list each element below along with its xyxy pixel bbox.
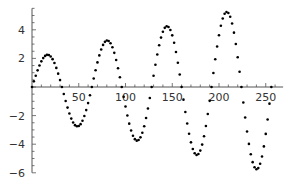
axes: 50100150200250−6−4−224: [9, 8, 283, 179]
x-tick-label: 50: [72, 91, 86, 104]
data-points: [31, 11, 273, 171]
x-tick-label: 100: [115, 91, 136, 104]
chart-plot: 50100150200250−6−4−224: [0, 0, 299, 190]
y-tick-label: 2: [18, 52, 25, 65]
x-tick-label: 150: [162, 91, 183, 104]
y-tick-label: −2: [9, 110, 25, 123]
y-tick-label: −6: [9, 167, 25, 180]
y-tick-label: −4: [9, 138, 25, 151]
y-tick-label: 4: [18, 24, 25, 37]
x-tick-label: 250: [255, 91, 276, 104]
x-tick-label: 200: [209, 91, 230, 104]
